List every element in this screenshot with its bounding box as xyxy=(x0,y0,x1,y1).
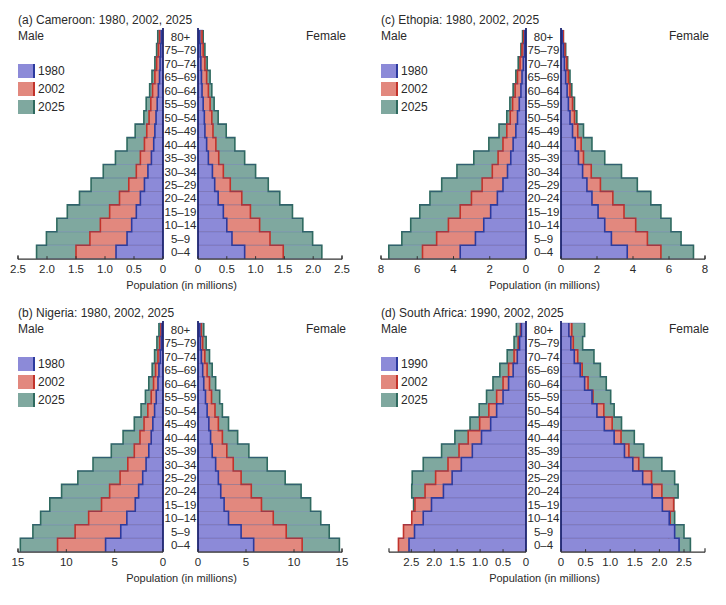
female-tick-label: 1.5 xyxy=(276,263,292,275)
age-group-label: 65–69 xyxy=(528,71,560,83)
male-tick-label: 0 xyxy=(523,263,529,275)
age-group-label: 10–14 xyxy=(528,512,561,524)
chart-title: (b) Nigeria: 1980, 2002, 2025 xyxy=(18,306,174,320)
age-group-label: 5–9 xyxy=(171,233,190,245)
age-group-label: 0–4 xyxy=(534,246,554,258)
age-group-label: 30–34 xyxy=(528,459,561,471)
age-group-label: 20–24 xyxy=(165,192,198,204)
legend-swatch-1 xyxy=(381,375,398,389)
pyramid-plot: 80+75–7970–7465–6960–6455–5950–5445–4940… xyxy=(0,0,363,293)
age-group-label: 65–69 xyxy=(165,364,197,376)
legend-label: 1980 xyxy=(401,64,428,78)
female-label: Female xyxy=(306,29,346,43)
pyramid-panel-ethiopia: 80+75–7970–7465–6960–6455–5950–5445–4940… xyxy=(363,0,726,293)
legend-item: 1980 xyxy=(18,62,65,80)
x-axis-title: Population (in millions) xyxy=(363,279,726,291)
male-tick-label: 2.5 xyxy=(10,263,26,275)
legend-swatch-2 xyxy=(18,100,35,114)
age-group-label: 35–39 xyxy=(165,152,197,164)
female-tick-label: 0 xyxy=(558,263,564,275)
male-tick-label: 0 xyxy=(160,556,166,568)
male-tick-label: 0.5 xyxy=(495,556,511,568)
legend: 1980 2002 2025 xyxy=(381,62,428,116)
legend-item: 2025 xyxy=(18,98,65,116)
age-group-label: 25–29 xyxy=(165,179,197,191)
female-tick-label: 2.0 xyxy=(305,263,321,275)
age-group-label: 55–59 xyxy=(165,98,197,110)
age-group-label: 0–4 xyxy=(534,539,554,551)
age-group-label: 75–79 xyxy=(528,337,560,349)
pyramid-panel-nigeria: 80+75–7970–7465–6960–6455–5950–5445–4940… xyxy=(0,293,363,586)
female-tick-label: 0.5 xyxy=(219,263,235,275)
female-tick-label: 6 xyxy=(666,263,672,275)
male-tick-label: 1.5 xyxy=(68,263,84,275)
legend: 1980 2002 2025 xyxy=(18,355,65,409)
female-tick-label: 2.0 xyxy=(651,556,667,568)
chart-title: (a) Cameroon: 1980, 2002, 2025 xyxy=(18,13,192,27)
legend-swatch-1 xyxy=(381,82,398,96)
female-label: Female xyxy=(306,322,346,336)
legend-item: 2025 xyxy=(18,391,65,409)
age-group-label: 15–19 xyxy=(528,206,560,218)
legend: 1990 2002 2025 xyxy=(381,355,428,409)
age-group-label: 35–39 xyxy=(165,445,197,457)
age-group-label: 30–34 xyxy=(165,459,198,471)
female-tick-label: 4 xyxy=(630,263,637,275)
chart-title: (d) South Africa: 1990, 2002, 2025 xyxy=(381,306,564,320)
age-group-label: 30–34 xyxy=(165,166,198,178)
male-tick-label: 5 xyxy=(111,556,117,568)
legend-swatch-2 xyxy=(381,100,398,114)
legend-item: 1990 xyxy=(381,355,428,373)
age-group-label: 5–9 xyxy=(534,526,553,538)
male-tick-label: 15 xyxy=(12,556,25,568)
age-group-label: 5–9 xyxy=(534,233,553,245)
age-group-label: 40–44 xyxy=(165,432,198,444)
legend-item: 2025 xyxy=(381,98,428,116)
female-tick-label: 5 xyxy=(243,556,249,568)
male-tick-label: 2.0 xyxy=(426,556,442,568)
legend-item: 1980 xyxy=(381,62,428,80)
female-tick-label: 10 xyxy=(288,556,301,568)
age-group-label: 20–24 xyxy=(528,485,561,497)
age-group-label: 70–74 xyxy=(528,351,561,363)
legend-label: 2025 xyxy=(401,100,428,114)
male-label: Male xyxy=(381,322,407,336)
pyramid-plot: 80+75–7970–7465–6960–6455–5950–5445–4940… xyxy=(363,0,726,293)
age-group-label: 25–29 xyxy=(165,472,197,484)
legend-swatch-0 xyxy=(18,64,35,78)
legend-label: 2002 xyxy=(401,375,428,389)
chart-title: (c) Ethopia: 1980, 2002, 2025 xyxy=(381,13,539,27)
age-group-label: 65–69 xyxy=(165,71,197,83)
pyramid-panel-cameroon: 80+75–7970–7465–6960–6455–5950–5445–4940… xyxy=(0,0,363,293)
legend-label: 2002 xyxy=(38,375,65,389)
age-group-label: 60–64 xyxy=(528,378,561,390)
female-tick-label: 2 xyxy=(594,263,600,275)
male-label: Male xyxy=(18,322,44,336)
female-tick-label: 2.5 xyxy=(334,263,350,275)
age-group-label: 20–24 xyxy=(528,192,561,204)
male-label: Male xyxy=(18,29,44,43)
age-group-label: 75–79 xyxy=(165,44,197,56)
age-group-label: 40–44 xyxy=(528,432,561,444)
legend-label: 2025 xyxy=(38,393,65,407)
legend-label: 1980 xyxy=(38,64,65,78)
age-group-label: 30–34 xyxy=(528,166,561,178)
age-group-label: 80+ xyxy=(171,31,191,43)
male-tick-label: 0 xyxy=(160,263,166,275)
female-tick-label: 2.5 xyxy=(676,556,692,568)
female-tick-label: 1.0 xyxy=(248,263,264,275)
male-tick-label: 2.0 xyxy=(39,263,55,275)
x-axis-title: Population (in millions) xyxy=(0,572,363,584)
legend-item: 2002 xyxy=(381,373,428,391)
age-group-label: 50–54 xyxy=(528,405,561,417)
male-tick-label: 1.0 xyxy=(472,556,488,568)
male-tick-label: 10 xyxy=(60,556,73,568)
male-tick-label: 4 xyxy=(450,263,457,275)
male-tick-label: 0 xyxy=(523,556,529,568)
x-axis-title: Population (in millions) xyxy=(0,279,363,291)
age-group-label: 55–59 xyxy=(528,391,560,403)
age-group-label: 75–79 xyxy=(165,337,197,349)
male-tick-label: 2.5 xyxy=(403,556,419,568)
age-group-label: 75–79 xyxy=(528,44,560,56)
pyramid-plot: 80+75–7970–7465–6960–6455–5950–5445–4940… xyxy=(0,293,363,586)
